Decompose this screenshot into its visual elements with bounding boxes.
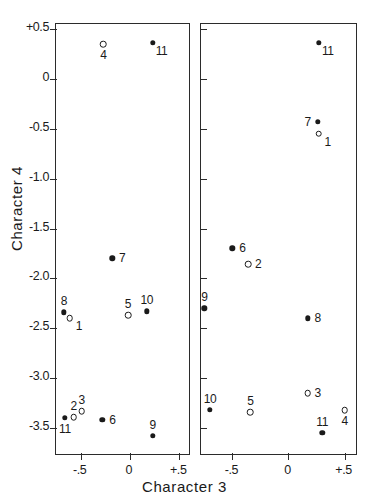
y-axis-title: Character 4 (8, 149, 25, 269)
data-point-label: 4 (100, 48, 106, 62)
y-tick-mark (201, 179, 207, 180)
y-tick-mark (50, 328, 57, 329)
data-point-label: 3 (314, 386, 320, 400)
data-point-label: 1 (76, 319, 82, 333)
y-tick-mark (201, 328, 207, 329)
data-point (230, 246, 235, 251)
data-point (100, 417, 105, 422)
data-point-label: 8 (314, 311, 320, 325)
y-tick-mark (201, 278, 207, 279)
data-point (304, 390, 311, 397)
data-point (78, 408, 85, 415)
data-point (245, 261, 252, 268)
y-tick-mark (50, 79, 57, 80)
data-point-label: 11 (156, 44, 168, 58)
y-tick-mark (201, 229, 207, 230)
y-tick-label: -1.5 (3, 220, 49, 234)
data-point (109, 256, 114, 261)
y-tick-label: -2.0 (3, 269, 49, 283)
y-tick-label: -3.0 (3, 369, 49, 383)
y-tick-label: -2.5 (3, 319, 49, 333)
x-tick-mark (81, 453, 82, 460)
data-point-label: 11 (322, 44, 334, 58)
y-tick-mark (201, 428, 207, 429)
data-point (150, 433, 155, 438)
data-point-label: 10 (204, 392, 217, 406)
data-point-label: 2 (71, 399, 77, 413)
data-point-label: 7 (304, 115, 310, 129)
data-point-label: 4 (341, 414, 347, 428)
y-tick-mark (201, 378, 207, 379)
data-point (305, 316, 310, 321)
data-point (125, 312, 132, 319)
data-point-label: 5 (125, 297, 131, 311)
data-point (62, 415, 67, 420)
data-point-label: 11 (59, 422, 71, 436)
data-point (319, 430, 324, 435)
y-tick-mark (50, 129, 57, 130)
data-point-label: 8 (61, 294, 67, 308)
y-tick-mark (50, 428, 57, 429)
data-point (341, 407, 348, 414)
y-tick-mark (201, 29, 207, 30)
x-tick-label: 0 (270, 463, 304, 477)
x-tick-label: +.5 (327, 463, 361, 477)
y-tick-mark (50, 378, 57, 379)
y-tick-mark (50, 229, 57, 230)
data-point-label: 6 (239, 241, 245, 255)
x-tick-mark (179, 453, 180, 460)
x-tick-mark (345, 453, 346, 460)
data-point (100, 41, 107, 48)
x-tick-label: -.5 (214, 463, 248, 477)
plot-panel-left: 411781510112369 (55, 23, 190, 455)
y-tick-mark (50, 179, 57, 180)
x-tick-label: -.5 (63, 463, 97, 477)
data-point-label: 11 (316, 415, 328, 429)
x-tick-mark (288, 453, 289, 460)
y-tick-mark (201, 129, 207, 130)
x-axis-title: Character 3 (0, 478, 369, 495)
data-point-label: 1 (325, 135, 331, 149)
data-point (144, 309, 149, 314)
y-tick-label: -3.5 (3, 419, 49, 433)
data-point (66, 315, 73, 322)
data-point-label: 9 (201, 290, 207, 304)
data-point (247, 409, 254, 416)
data-point-label: 9 (149, 418, 155, 432)
y-tick-label: 0 (3, 70, 49, 84)
data-point (202, 306, 207, 311)
plot-panel-right: 117162981053411 (200, 23, 357, 455)
data-point-label: 3 (78, 393, 84, 407)
data-point (207, 407, 212, 412)
y-tick-mark (50, 29, 57, 30)
x-tick-mark (232, 453, 233, 460)
data-point (315, 119, 320, 124)
x-tick-mark (130, 453, 131, 460)
data-point (150, 40, 155, 45)
data-point-label: 2 (255, 257, 261, 271)
x-tick-label: 0 (112, 463, 146, 477)
data-point (316, 40, 321, 45)
data-point-label: 10 (140, 293, 153, 307)
y-tick-mark (50, 278, 57, 279)
data-point-label: 6 (109, 413, 115, 427)
data-point (61, 310, 66, 315)
data-point-label: 5 (247, 394, 253, 408)
y-tick-label: -0.5 (3, 120, 49, 134)
y-tick-label: -1.0 (3, 170, 49, 184)
x-tick-label: +.5 (161, 463, 195, 477)
y-tick-mark (201, 79, 207, 80)
data-point (70, 414, 77, 421)
data-point (315, 130, 322, 137)
data-point-label: 7 (119, 251, 125, 265)
y-tick-label: +0.5 (3, 20, 49, 34)
scatter-figure: Character 4 +0.50-0.5-1.0-1.5-2.0-2.5-3.… (0, 0, 369, 502)
